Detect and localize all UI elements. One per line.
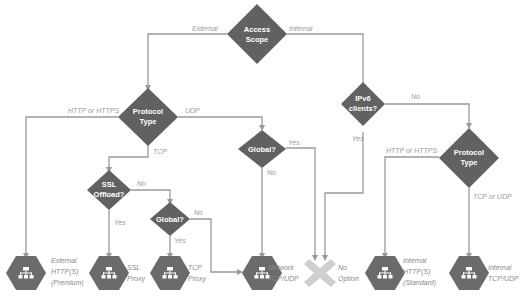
leaf-label: Proxy [188, 275, 206, 283]
decision-label: IPv6 [355, 94, 370, 103]
leaf-network-tcp-udp: Network TCP/UDP [242, 256, 299, 290]
leaf-label: Internal [488, 264, 512, 271]
edge-label-internal: Internal [289, 25, 313, 32]
edge-label-yes: Yes [174, 237, 186, 244]
leaf-label: Proxy [127, 275, 145, 283]
leaf-label: Option [338, 275, 359, 283]
decision-label: SSL [102, 180, 117, 189]
decision-label: Offload? [94, 190, 125, 199]
decision-tree-diagram: Access Scope Protocol Type Global? SSL O… [0, 0, 525, 300]
decision-label: Protocol [133, 107, 163, 116]
decision-ipv6-clients: IPv6 clients? [341, 82, 385, 126]
leaf-label: SSL [127, 264, 140, 271]
leaf-label: TCP/UDP [488, 275, 519, 282]
edge-label-tcp: TCP [153, 148, 167, 155]
decision-ssl-offload: SSL Offload? [87, 170, 131, 210]
leaf-label: (Standard) [403, 279, 436, 287]
decision-global-tcp: Global? [150, 202, 190, 236]
decision-label: clients? [349, 104, 378, 113]
decision-label: Protocol [454, 148, 484, 157]
decision-access-scope: Access Scope [227, 4, 287, 64]
edge-label-yes: Yes [114, 219, 126, 226]
edge-label-external: External [192, 25, 218, 32]
leaf-label: TCP/UDP [268, 275, 299, 282]
leaf-external-https-premium: External HTTP(S) (Premium) [6, 256, 84, 290]
edge-label-udp: UDP [185, 107, 200, 114]
decision-global-udp: Global? [238, 130, 286, 168]
leaf-tcp-proxy: TCP Proxy [150, 256, 206, 290]
leaf-label: TCP [188, 264, 202, 271]
leaf-label: Internal [403, 257, 427, 264]
edge-label-yes: Yes [352, 135, 364, 142]
decision-protocol-type-internal: Protocol Type [439, 128, 499, 188]
leaf-label: HTTP(S) [51, 268, 79, 276]
edge-label-no: No [137, 180, 146, 187]
x-icon [304, 259, 336, 287]
edge-labels: External Internal HTTP or HTTPS UDP TCP … [68, 25, 512, 244]
edge-label-tcp-or-udp: TCP or UDP [473, 193, 512, 200]
decision-protocol-type-external: Protocol Type [118, 88, 178, 146]
decision-label: Global? [248, 145, 276, 154]
leaf-label: HTTP(S) [403, 268, 431, 276]
leaf-no-option: No Option [304, 259, 359, 287]
decision-label: Scope [246, 35, 269, 44]
leaf-label: Network [268, 264, 294, 271]
decision-label: Global? [156, 215, 184, 224]
leaf-internal-https-standard: Internal HTTP(S) (Standard) [365, 256, 436, 290]
edge-label-no: No [267, 169, 276, 176]
leaf-label: External [51, 257, 77, 264]
leaf-ssl-proxy: SSL Proxy [89, 256, 145, 290]
edge-label-no: No [194, 209, 203, 216]
edge-label-http-https: HTTP or HTTPS [386, 147, 437, 154]
edge-label-no: No [411, 93, 420, 100]
edge-label-yes: Yes [288, 139, 300, 146]
edge-label-http-https: HTTP or HTTPS [68, 107, 119, 114]
leaf-internal-tcp-udp: Internal TCP/UDP [449, 256, 519, 290]
leaf-label: No [338, 264, 347, 271]
decision-label: Type [140, 117, 157, 126]
decision-label: Type [461, 158, 478, 167]
leaf-label: (Premium) [51, 279, 84, 287]
decision-label: Access [244, 25, 270, 34]
